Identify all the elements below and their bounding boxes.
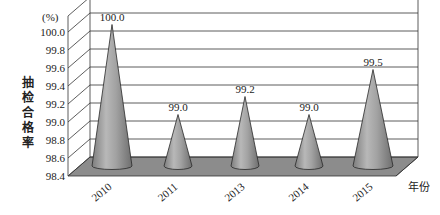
cones: [92, 25, 393, 170]
svg-text:2014: 2014: [286, 180, 311, 204]
svg-text:100.0: 100.0: [40, 26, 65, 38]
svg-text:99.2: 99.2: [235, 83, 254, 95]
y-axis: 98.498.698.899.099.299.499.699.8100.0: [40, 16, 68, 182]
svg-text:98.4: 98.4: [46, 170, 66, 182]
cone-2013: [231, 97, 259, 170]
svg-text:99.0: 99.0: [168, 101, 188, 113]
svg-text:99.0: 99.0: [46, 116, 66, 128]
cone-2014: [295, 115, 323, 170]
svg-text:99.5: 99.5: [363, 56, 383, 68]
cone-2015: [353, 70, 393, 170]
svg-text:98.8: 98.8: [46, 134, 66, 146]
svg-text:100.0: 100.0: [100, 11, 125, 23]
svg-text:99.2: 99.2: [46, 98, 65, 110]
svg-text:99.0: 99.0: [299, 101, 319, 113]
cone-2010: [92, 25, 132, 170]
svg-text:99.8: 99.8: [46, 44, 66, 56]
svg-text:2011: 2011: [155, 180, 179, 203]
svg-text:2013: 2013: [222, 180, 247, 204]
svg-text:98.6: 98.6: [46, 152, 66, 164]
cone-chart: 98.498.698.899.099.299.499.699.8100.0 10…: [0, 0, 440, 215]
svg-text:99.6: 99.6: [46, 62, 66, 74]
x-axis-ticks: 20102011201320142015: [89, 180, 375, 204]
cone-2011: [164, 115, 192, 170]
svg-text:2010: 2010: [89, 180, 114, 204]
data-labels: 100.099.099.299.099.5: [100, 11, 384, 113]
svg-text:2015: 2015: [350, 180, 375, 204]
svg-text:99.4: 99.4: [46, 80, 66, 92]
